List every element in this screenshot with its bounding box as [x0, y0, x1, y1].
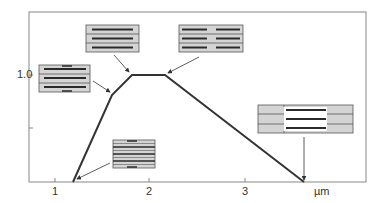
arrow-shortest	[77, 163, 110, 179]
x-tick-label-2: 2	[146, 186, 152, 197]
sarcomere-inset-plateau-end	[179, 25, 243, 52]
sarcomere-inset-no-overlap	[258, 105, 353, 133]
sarcomere-inset-optimal	[86, 25, 139, 52]
sarcomere-inset-short	[39, 65, 90, 92]
x-tick-label-3: 3	[242, 186, 248, 197]
x-tick-label-1: 1	[52, 186, 58, 197]
arrow-optimal	[114, 55, 129, 72]
x-axis-unit-label: µm	[314, 186, 330, 197]
arrow-plateau-end	[168, 57, 199, 73]
y-tick-label-1: 1.0	[17, 69, 32, 80]
sarcomere-inset-shortest	[113, 140, 155, 168]
arrow-short	[93, 81, 110, 92]
length-tension-chart	[0, 0, 376, 203]
